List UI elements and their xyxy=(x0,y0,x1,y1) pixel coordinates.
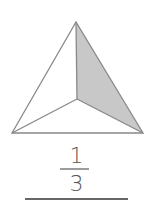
fraction-denominator: 3 xyxy=(0,173,153,195)
fraction-numerator: 1 xyxy=(0,145,153,167)
